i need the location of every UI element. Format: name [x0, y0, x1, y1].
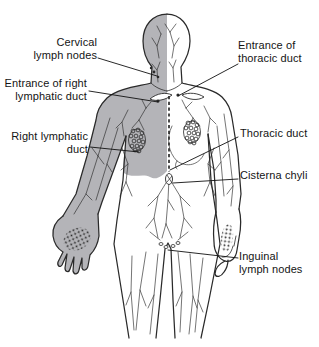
- cisterna-chyli-knot: [166, 174, 173, 185]
- leader-entrance-thoracic-duct: [178, 64, 238, 96]
- label-entrance-of-right-lymphatic-duct: Entrance of right lymphatic duct: [5, 77, 87, 102]
- label-right-lymphatic-duct: Right lymphatic duct: [11, 130, 88, 155]
- body-outline: [53, 14, 241, 338]
- lymphatic-system-diagram: Cervical lymph nodes Entrance of right l…: [0, 0, 319, 347]
- leader-thoracic-duct: [170, 137, 238, 170]
- label-cisterna-chyli: Cisterna chyli: [240, 169, 307, 182]
- label-entrance-of-thoracic-duct: Entrance of thoracic duct: [238, 39, 302, 64]
- label-cervical-lymph-nodes: Cervical lymph nodes: [34, 36, 97, 61]
- leader-cisterna-chyli: [173, 179, 238, 183]
- axillary-node-cluster-right: [184, 120, 201, 145]
- label-inguinal-lymph-nodes: Inguinal lymph nodes: [239, 250, 302, 275]
- label-thoracic-duct: Thoracic duct: [240, 127, 307, 140]
